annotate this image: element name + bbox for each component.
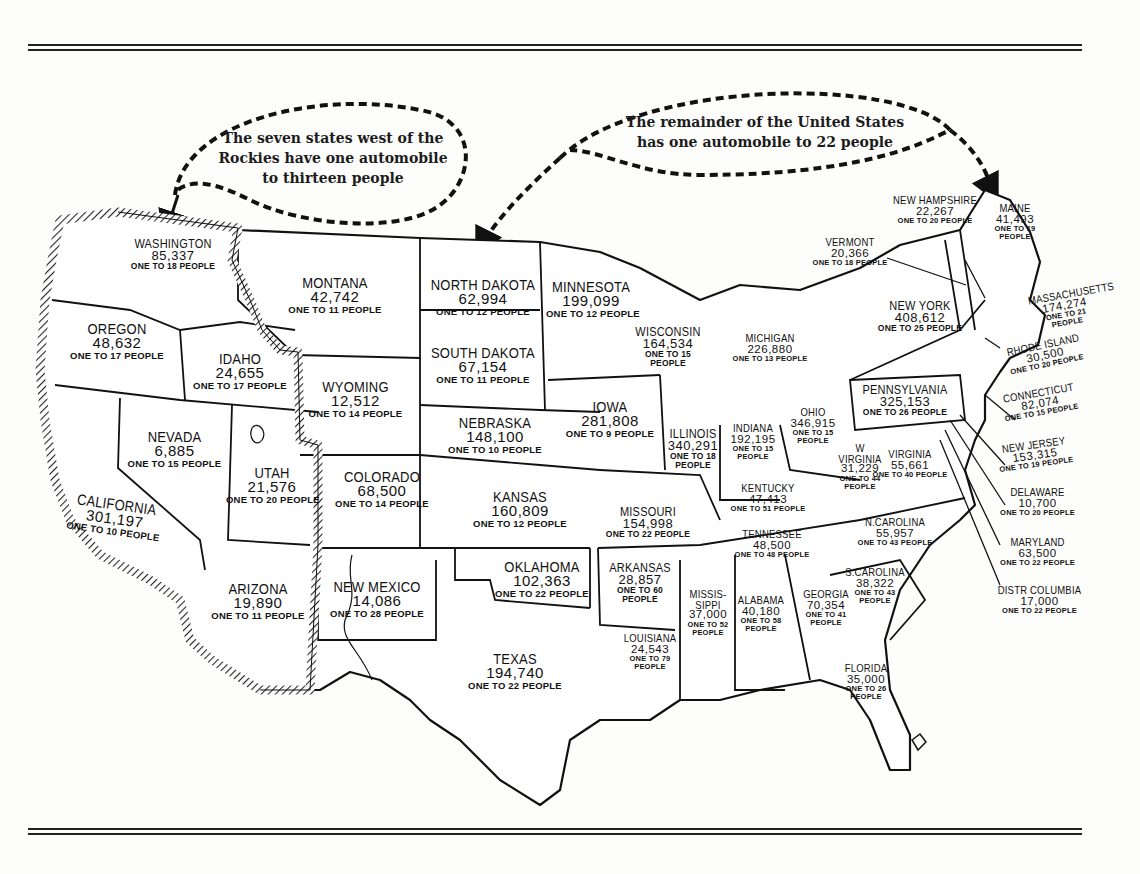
state-mississippi: MISSIS-SIPPI37,000ONE TO 52 PEOPLE	[682, 590, 734, 636]
state-name: MARYLAND	[995, 537, 1080, 548]
state-nevada: NEVADA6,885ONE TO 15 PEOPLE	[122, 430, 227, 468]
state-name: FLORIDA	[836, 663, 896, 674]
car-ratio: ONE TO 43 PEOPLE	[850, 539, 940, 547]
state-name: UTAH	[226, 465, 318, 480]
state-name: ALABAMA	[736, 595, 786, 606]
car-count: 24,655	[190, 365, 290, 380]
state-north-dakota: NORTH DAKOTA62,994ONE TO 12 PEOPLE	[428, 278, 538, 316]
car-ratio: ONE TO 25 PEOPLE	[870, 324, 970, 333]
state-name: ILLINOIS	[658, 427, 728, 440]
car-count: 408,612	[870, 311, 970, 324]
car-ratio: ONE TO 17 PEOPLE	[190, 381, 290, 391]
state-name: OREGON	[62, 321, 172, 336]
state-district-of-columbia: DISTR COLUMBIA17,000ONE TO 22 PEOPLE	[992, 586, 1087, 615]
state-arkansas: ARKANSAS28,857ONE TO 60 PEOPLE	[600, 562, 680, 604]
state-wyoming: WYOMING12,512ONE TO 14 PEOPLE	[298, 380, 413, 418]
car-ratio: ONE TO 20 PEOPLE	[890, 217, 980, 225]
state-name: N.CAROLINA	[850, 517, 940, 528]
state-ohio: OHIO346,915ONE TO 15 PEOPLE	[780, 408, 846, 445]
state-name: MISSOURI	[598, 505, 698, 518]
car-ratio: ONE TO 9 PEOPLE	[560, 429, 660, 439]
state-name: WYOMING	[298, 379, 413, 394]
state-name: OHIO	[780, 407, 846, 418]
state-name: NEW MEXICO	[322, 579, 432, 594]
state-virginia: VIRGINIA55,661ONE TO 40 PEOPLE	[870, 450, 950, 479]
state-name: VERMONT	[812, 237, 888, 248]
car-ratio: ONE TO 15 PEOPLE	[122, 459, 227, 469]
car-ratio: ONE TO 12 PEOPLE	[465, 519, 575, 529]
car-ratio: ONE TO 48 PEOPLE	[722, 551, 822, 559]
state-name: MISSIS-SIPPI	[682, 589, 734, 611]
car-ratio: ONE TO 11 PEOPLE	[428, 375, 538, 385]
state-name: TENNESSEE	[722, 529, 822, 540]
callout-rest-text: The remainder of the United States has o…	[600, 112, 930, 152]
car-ratio: ONE TO 20 PEOPLE	[995, 509, 1080, 517]
lake-okeechobee	[912, 734, 926, 750]
state-name: S.CAROLINA	[840, 567, 910, 578]
car-count: 85,337	[128, 249, 218, 262]
car-count: 340,291	[658, 439, 728, 452]
state-washington: WASHINGTON85,337ONE TO 18 PEOPLE	[128, 238, 218, 271]
car-ratio: ONE TO 43 PEOPLE	[840, 589, 910, 604]
car-ratio: ONE TO 18 PEOPLE	[658, 452, 728, 469]
car-ratio: ONE TO 52 PEOPLE	[682, 621, 734, 636]
car-count: 68,500	[322, 483, 442, 498]
state-name: COLORADO	[322, 469, 442, 484]
state-new-york: NEW YORK408,612ONE TO 25 PEOPLE	[870, 300, 970, 333]
car-ratio: ONE TO 19 PEOPLE	[990, 225, 1040, 240]
car-ratio: ONE TO 14 PEOPLE	[298, 409, 413, 419]
state-name: MICHIGAN	[730, 333, 810, 344]
state-name: NEBRASKA	[440, 415, 550, 430]
state-name: NORTH DAKOTA	[428, 277, 538, 292]
car-ratio: ONE TO 40 PEOPLE	[870, 471, 950, 479]
car-ratio: ONE TO 22 PEOPLE	[598, 530, 698, 539]
car-ratio: ONE TO 11 PEOPLE	[280, 305, 390, 315]
state-maryland: MARYLAND63,500ONE TO 22 PEOPLE	[995, 538, 1080, 567]
car-ratio: ONE TO 22 PEOPLE	[995, 559, 1080, 567]
car-count: 194,740	[455, 665, 575, 680]
car-ratio: ONE TO 26 PEOPLE	[850, 408, 960, 417]
callout-west-line-2: Rockies have one automobile	[198, 148, 468, 168]
car-count: 199,099	[546, 293, 636, 308]
car-ratio: ONE TO 60 PEOPLE	[600, 586, 680, 603]
state-arizona: ARIZONA19,890ONE TO 11 PEOPLE	[208, 582, 308, 620]
car-count: 6,885	[122, 443, 227, 458]
callout-west-line-3: to thirteen people	[198, 168, 468, 188]
car-ratio: ONE TO 20 PEOPLE	[226, 495, 318, 505]
state-missouri: MISSOURI154,998ONE TO 22 PEOPLE	[598, 506, 698, 539]
state-name: INDIANA	[728, 423, 778, 434]
state-name: WASHINGTON	[128, 237, 218, 250]
state-oregon: OREGON48,632ONE TO 17 PEOPLE	[62, 322, 172, 360]
state-name: DELAWARE	[995, 487, 1080, 498]
car-count: 48,632	[62, 335, 172, 350]
state-name: SOUTH DAKOTA	[428, 345, 538, 360]
state-name: ARIZONA	[208, 581, 308, 596]
state-minnesota: MINNESOTA199,099ONE TO 12 PEOPLE	[546, 280, 636, 318]
state-name: PENNSYLVANIA	[850, 383, 960, 396]
car-count: 102,363	[492, 573, 592, 588]
state-new-mexico: NEW MEXICO14,086ONE TO 28 PEOPLE	[322, 580, 432, 618]
state-vermont: VERMONT20,366ONE TO 18 PEOPLE	[812, 238, 888, 267]
state-south-dakota: SOUTH DAKOTA67,154ONE TO 11 PEOPLE	[428, 346, 538, 384]
car-ratio: ONE TO 18 PEOPLE	[128, 262, 218, 271]
car-count: 154,998	[598, 517, 698, 530]
state-indiana: INDIANA192,195ONE TO 15 PEOPLE	[728, 424, 778, 461]
car-ratio: ONE TO 22 PEOPLE	[492, 589, 592, 599]
car-ratio: ONE TO 13 PEOPLE	[730, 355, 810, 363]
state-name: MAINE	[990, 203, 1040, 214]
state-nebraska: NEBRASKA148,100ONE TO 10 PEOPLE	[440, 416, 550, 454]
state-name: MINNESOTA	[546, 279, 636, 294]
state-florida: FLORIDA35,000ONE TO 26 PEOPLE	[836, 664, 896, 701]
car-ratio: ONE TO 28 PEOPLE	[322, 609, 432, 619]
car-ratio: ONE TO 11 PEOPLE	[208, 611, 308, 621]
state-maine: MAINE41,493ONE TO 19 PEOPLE	[990, 204, 1040, 241]
state-texas: TEXAS194,740ONE TO 22 PEOPLE	[455, 652, 575, 690]
car-ratio: ONE TO 15 PEOPLE	[628, 350, 708, 367]
car-ratio: ONE TO 15 PEOPLE	[780, 429, 846, 444]
car-count: 21,576	[226, 479, 318, 494]
state-north-carolina: N.CAROLINA55,957ONE TO 43 PEOPLE	[850, 518, 940, 547]
state-colorado: COLORADO68,500ONE TO 14 PEOPLE	[322, 470, 442, 508]
state-kentucky: KENTUCKY47,413ONE TO 51 PEOPLE	[718, 484, 818, 513]
state-wisconsin: WISCONSIN164,534ONE TO 15 PEOPLE	[628, 326, 708, 368]
car-count: 67,154	[428, 359, 538, 374]
